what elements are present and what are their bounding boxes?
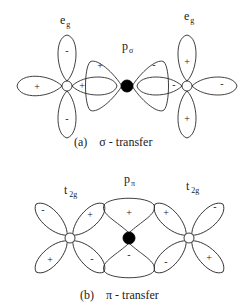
orbital-label-p-sigma: pσ [122,39,134,55]
sign-label: - [213,201,216,212]
orbital-label-eg: eg [60,13,70,29]
sign-label: + [163,207,169,218]
metal-atom-open-circle [184,233,194,243]
center-p-pi-orbital: + - pπ [103,172,154,278]
sign-label: - [65,45,68,56]
left-t2g-orbital: - + + - t2g [30,183,110,278]
sign-label: - [41,204,44,215]
sign-label: + [34,81,40,92]
orbital-label-eg: eg [184,9,194,25]
right-t2g-orbital: + - - + t2g [149,179,229,278]
sign-label: + [79,80,85,91]
sign-label: - [65,113,68,124]
panel-a-sigma-transfer: + + - - eg + - pσ - - + + eg ( [17,9,237,149]
sign-label: + [184,56,190,67]
metal-atom-open-circle [182,81,192,91]
eg-right-lobe [192,77,237,95]
sign-label: - [127,249,130,260]
ligand-atom-filled-circle [123,232,135,244]
caption-b: (b)π - transfer [80,288,159,302]
metal-atom-open-circle [62,81,72,91]
p-sigma-left-lobe [86,61,123,111]
metal-atom-open-circle [65,233,75,243]
right-eg-orbital: - - + + eg [137,9,237,138]
sign-label: - [152,59,155,70]
sign-label: + [126,207,132,218]
panel-b-pi-transfer: - + + - t2g + - pπ + - - [30,172,229,302]
center-p-sigma-orbital: + - pσ [86,39,169,111]
caption-a: (a)σ - transfer [74,135,152,149]
sign-label: - [164,256,167,267]
orbital-label-p-pi: pπ [124,172,135,188]
p-sigma-right-lobe [132,61,169,111]
sign-label: + [206,252,212,263]
left-eg-orbital: + + - - eg [17,13,117,138]
sign-label: - [172,79,175,90]
sign-label: - [220,78,223,89]
orbital-label-t2g: t2g [64,183,77,199]
ligand-atom-filled-circle [121,80,133,92]
sign-label: + [184,113,190,124]
sign-label: - [90,253,93,264]
sign-label: + [47,254,53,265]
orbital-overlap-diagram: + + - - eg + - pσ - - + + eg ( [0,0,246,304]
sign-label: + [87,209,93,220]
eg-top-lobe [58,35,76,81]
p-pi-bottom-lobe [103,243,154,278]
orbital-label-t2g: t2g [186,179,199,195]
sign-label: + [97,60,103,71]
